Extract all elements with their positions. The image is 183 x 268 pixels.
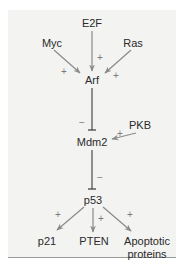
sign-myc-arf: + (61, 66, 67, 77)
node-mdm2: Mdm2 (77, 136, 108, 148)
node-apoptotic-proteins-line1: Apoptotic (124, 235, 170, 247)
sign-arf-mdm2: − (79, 117, 85, 128)
node-p21: p21 (38, 235, 56, 247)
sign-p53-pten: + (98, 213, 104, 224)
sign-pkb-mdm2: + (117, 128, 123, 139)
arrow-myc-to-arf (54, 50, 80, 73)
node-arf: Arf (85, 74, 100, 86)
node-myc: Myc (42, 37, 63, 49)
sign-ras-arf: + (113, 70, 119, 81)
node-pkb: PKB (129, 119, 151, 131)
pathway-diagram: E2F Myc Ras Arf PKB Mdm2 p53 p21 PTEN Ap… (0, 0, 183, 268)
sign-mdm2-p53: − (97, 172, 103, 183)
node-pten: PTEN (79, 235, 108, 247)
node-apoptotic-proteins-line2: proteins (127, 248, 167, 260)
arrow-pkb-to-mdm2 (112, 133, 136, 139)
node-p53: p53 (84, 194, 102, 206)
sign-p53-p21: + (55, 209, 61, 220)
arrow-p53-to-p21 (57, 207, 84, 230)
sign-e2f-arf: + (97, 52, 103, 63)
node-e2f: E2F (82, 17, 102, 29)
node-ras: Ras (123, 37, 143, 49)
sign-p53-apoptotic: + (127, 209, 133, 220)
